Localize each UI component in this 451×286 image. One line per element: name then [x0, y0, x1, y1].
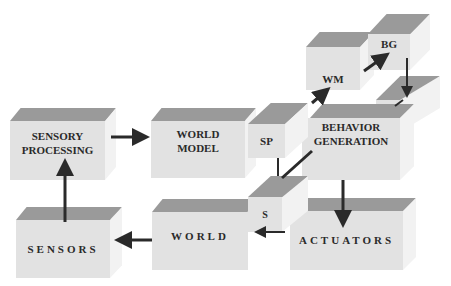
box-front: SENSORYPROCESSING	[10, 121, 105, 180]
box-label: ACTUATORS	[299, 233, 394, 247]
box-front: SP	[248, 124, 285, 158]
box-label: BG	[381, 37, 397, 51]
box-front: ACTUATORS	[290, 211, 403, 270]
box-top	[151, 108, 256, 121]
box-top	[152, 199, 258, 212]
box-front: WORLDMODEL	[151, 121, 245, 178]
box-top	[310, 104, 414, 118]
box-label: SP	[260, 134, 273, 148]
box-front: S	[248, 197, 282, 232]
box-front: WORLD	[152, 212, 248, 270]
box-label: BEHAVIORGENERATION	[314, 120, 388, 148]
box-label: SENSORYPROCESSING	[22, 129, 94, 157]
arrow-bg-to-wm	[312, 91, 326, 103]
box-label: WORLD	[171, 229, 229, 243]
box-front: BEHAVIORGENERATION	[302, 118, 400, 180]
box-top	[290, 198, 416, 211]
box-front: BG	[368, 34, 410, 70]
box-top	[16, 207, 122, 220]
box-front: WM	[306, 47, 360, 90]
box-top	[10, 108, 116, 121]
box-front: SENSORS	[16, 220, 110, 278]
box-label: SENSORS	[27, 242, 98, 256]
box-label: WORLDMODEL	[177, 127, 220, 155]
box-label: S	[262, 208, 268, 222]
box-label: WM	[322, 72, 343, 86]
